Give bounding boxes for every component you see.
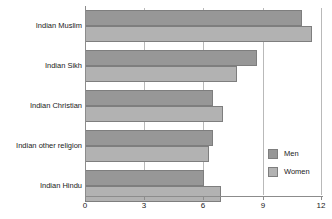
y-category-label-indian-hindu: Indian Hindu	[0, 181, 82, 190]
y-axis-line	[85, 6, 86, 197]
bar-men-indian-muslim	[85, 10, 302, 26]
bar-women-indian-other-religion	[85, 146, 209, 162]
x-tick-label-9: 9	[253, 201, 273, 210]
bar-women-indian-christian	[85, 106, 223, 122]
tickmark-9	[263, 196, 264, 200]
y-category-label-indian-sikh: Indian Sikh	[0, 61, 82, 70]
y-category-label-indian-other-religion: Indian other religion	[0, 141, 82, 150]
x-tick-label-6: 6	[193, 201, 213, 210]
y-category-label-indian-christian: Indian Christian	[0, 101, 82, 110]
bar-women-indian-muslim	[85, 26, 312, 42]
legend: Men Women	[268, 148, 326, 184]
legend-label-men: Men	[284, 149, 299, 158]
bar-men-indian-sikh	[85, 50, 257, 66]
legend-item-men: Men	[268, 148, 326, 159]
legend-swatch-women-icon	[268, 167, 278, 177]
tickmark-6	[203, 196, 204, 200]
bar-women-indian-sikh	[85, 66, 237, 82]
legend-item-women: Women	[268, 166, 326, 177]
tickmark-12	[321, 196, 322, 200]
x-tick-label-3: 3	[134, 201, 154, 210]
legend-swatch-men-icon	[268, 149, 278, 159]
bar-men-indian-christian	[85, 90, 213, 106]
legend-label-women: Women	[284, 167, 310, 176]
bar-chart: 0 3 6 9 12 Indian Muslim Indian Sikh Ind…	[0, 0, 332, 219]
bar-men-indian-hindu	[85, 170, 204, 186]
tickmark-0	[85, 196, 86, 200]
y-category-label-indian-muslim: Indian Muslim	[0, 21, 82, 30]
x-axis-line	[85, 196, 323, 197]
bar-women-indian-hindu	[85, 186, 221, 202]
bar-men-indian-other-religion	[85, 130, 213, 146]
tickmark-3	[144, 196, 145, 200]
x-tick-label-12: 12	[311, 201, 331, 210]
x-tick-label-0: 0	[75, 201, 95, 210]
